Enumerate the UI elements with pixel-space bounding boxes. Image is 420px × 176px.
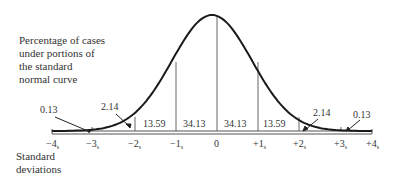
tick-label: +1s bbox=[253, 138, 267, 150]
region-label-2: 13.59 bbox=[143, 118, 166, 129]
normal-curve-chart: Percentage of cases under portions of th… bbox=[0, 0, 420, 176]
region-label-3: 34.13 bbox=[183, 118, 206, 129]
tick-label: +2s bbox=[293, 138, 307, 150]
tick-label: −3s bbox=[86, 138, 100, 150]
arrow-0-13-left bbox=[55, 117, 88, 131]
arrow-0-13-right bbox=[348, 120, 360, 130]
tick-label: 0 bbox=[214, 138, 219, 149]
sd-dividers bbox=[92, 15, 341, 131]
x-axis-label-line: deviations bbox=[16, 163, 61, 176]
x-tick-labels: −4s −3s −2s −1s 0 +1s +2s +3s +4s bbox=[46, 138, 380, 150]
tick-label: +4s bbox=[366, 138, 380, 150]
region-label-7: 0.13 bbox=[353, 109, 371, 120]
x-axis-label-line: Standard bbox=[16, 150, 61, 163]
x-axis-label: Standard deviations bbox=[16, 150, 61, 176]
region-label-4: 34.13 bbox=[224, 118, 247, 129]
region-label-5: 13.59 bbox=[263, 118, 286, 129]
region-label-1: 2.14 bbox=[101, 101, 119, 112]
tick-label: +3s bbox=[334, 138, 348, 150]
chart-plot: 0.13 2.14 13.59 34.13 34.13 13.59 2.14 0… bbox=[0, 0, 420, 176]
tick-label: −4s bbox=[46, 138, 60, 150]
region-label-6: 2.14 bbox=[313, 107, 331, 118]
region-label-0: 0.13 bbox=[40, 104, 58, 115]
tick-label: −1s bbox=[170, 138, 184, 150]
tick-label: −2s bbox=[128, 138, 142, 150]
